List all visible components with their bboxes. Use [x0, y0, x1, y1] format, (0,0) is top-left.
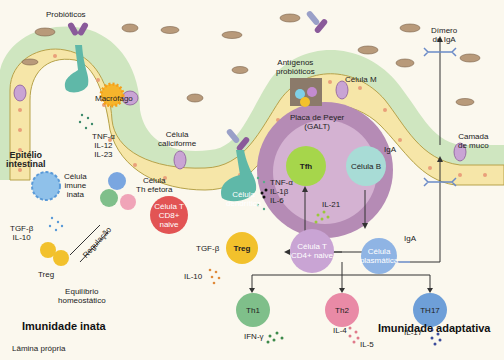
th1-cell: Th1	[236, 293, 270, 327]
innate-cytokines: TGF-βIL-10	[10, 224, 33, 242]
homeostasis-label: Equilíbriohomeostático	[58, 287, 106, 305]
th-effector-cell-blue	[108, 172, 126, 190]
adaptive-immunity-title: Imunidade adaptativa	[378, 324, 490, 333]
b-cell: Célula B	[346, 146, 386, 186]
dendritic-cell-label: Céluladendrítica	[226, 190, 261, 208]
iga-dimer-label: Dímerode IgA	[431, 26, 457, 44]
treg-cytokines-tgf: TGF-β	[196, 244, 219, 253]
treg-cytokines-il10: IL-10	[184, 272, 202, 281]
dendritic-cytokines: TNF-αIL-1βIL-6	[270, 178, 293, 205]
cd8-naive-cell: Célula TCD8+ naive	[150, 196, 188, 234]
treg-cell: Treg	[226, 232, 258, 264]
goblet-cell-label: Célulacaliciforme	[158, 130, 196, 148]
lamina-propria-label: Lâmina própria	[12, 344, 65, 353]
th2-cytokine-il5: IL-5	[360, 340, 374, 349]
macrophage-cytokines: TNF-αIL-12IL-23	[92, 132, 115, 159]
iga-label-2: IgA	[404, 234, 416, 243]
treg-cell-left-2	[53, 250, 69, 266]
m-cell-label: Célula M	[345, 75, 377, 84]
th2-cell: Th2	[325, 293, 359, 327]
innate-immunity-title: Imunidade inata	[22, 322, 106, 331]
epithelium-label: Epitéliointestinal	[6, 151, 46, 169]
probiotics-label: Probióticos	[46, 10, 86, 19]
treg-left-label: Treg	[38, 270, 54, 279]
probiotic-antigens-label: Antígenosprobióticos	[276, 58, 315, 76]
th-effector-cell-green	[100, 189, 118, 207]
gut-immunity-diagram: Célula TCD8+ naive Treg Célula TCD4+ nai…	[0, 0, 504, 360]
peyer-patch-label: Placa de Peyer(GALT)	[290, 113, 344, 131]
th2-cytokine-il4: IL-4	[333, 326, 347, 335]
macrophage-label: Macrófago	[95, 94, 133, 103]
plasma-cell: Célulaplasmática	[361, 238, 397, 274]
il21-label: IL-21	[322, 200, 340, 209]
th-effector-cell-pink	[120, 194, 136, 210]
th1-cytokines: IFN-γ	[244, 332, 264, 341]
innate-cell-body	[32, 172, 60, 200]
th-effector-label: CélulaTh efetora	[136, 176, 172, 194]
mucus-label: Camadade muco	[458, 132, 489, 150]
innate-cell-label: Célulaimuneinata	[64, 172, 87, 199]
cd4-naive-cell: Célula TCD4+ naive	[290, 229, 334, 273]
iga-label-1: IgA	[384, 145, 396, 154]
